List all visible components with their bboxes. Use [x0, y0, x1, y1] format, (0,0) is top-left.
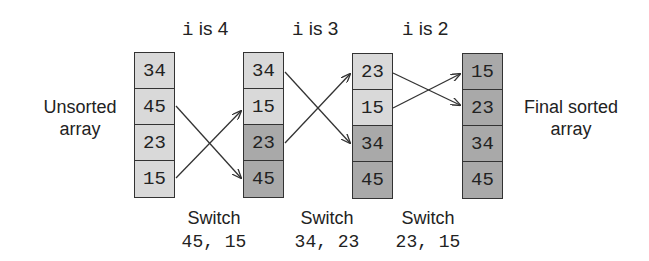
switch-values: 34, 23: [279, 230, 375, 254]
switch-caption-2: Switch 34, 23: [279, 206, 375, 254]
arrow-icon: [393, 73, 460, 105]
switch-label: Switch: [166, 206, 262, 230]
switch-label: Switch: [380, 206, 476, 230]
switch-values: 23, 15: [380, 230, 476, 254]
switch-caption-3: Switch 23, 15: [380, 206, 476, 254]
arrow-icon: [393, 74, 460, 108]
switch-values: 45, 15: [166, 230, 262, 254]
switch-caption-1: Switch 45, 15: [166, 206, 262, 254]
switch-label: Switch: [279, 206, 375, 230]
